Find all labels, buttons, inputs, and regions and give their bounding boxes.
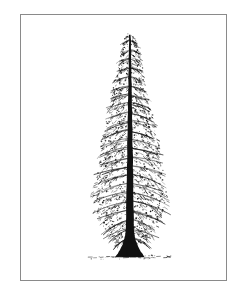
plate-border (20, 14, 227, 281)
illustration-page: conifer-tree (0, 0, 245, 300)
illustration-subject-label: conifer-tree (0, 0, 1, 1)
conifer-tree-illustration (21, 15, 226, 280)
